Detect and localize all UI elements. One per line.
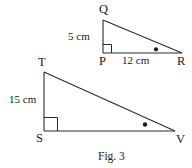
vertex-label-p: P xyxy=(99,55,106,68)
measure-label-ts: 15 cm xyxy=(9,94,36,105)
angle-marker-dot-v xyxy=(143,122,147,126)
measure-label-pq: 5 cm xyxy=(68,31,90,42)
angle-marker-dot-r xyxy=(154,47,158,51)
vertex-label-r: R xyxy=(177,55,185,68)
segment-tv-hypotenuse xyxy=(44,72,175,131)
triangle-pqr-shape xyxy=(103,20,182,53)
measure-label-pr: 12 cm xyxy=(122,55,149,66)
vertex-label-t: T xyxy=(38,56,46,69)
triangle-stv-shape xyxy=(44,72,175,131)
vertex-label-s: S xyxy=(36,132,43,145)
geometry-figure: Q P R 5 cm 12 cm T S V 15 cm Fig. 3 xyxy=(0,0,192,168)
vertex-label-q: Q xyxy=(99,3,108,16)
figure-caption: Fig. 3 xyxy=(98,151,125,163)
right-angle-marker-s xyxy=(44,118,58,132)
right-angle-marker-p xyxy=(103,45,112,54)
figure-drawing xyxy=(0,0,192,168)
vertex-label-v: V xyxy=(176,133,185,146)
segment-qr-hypotenuse xyxy=(103,20,182,53)
